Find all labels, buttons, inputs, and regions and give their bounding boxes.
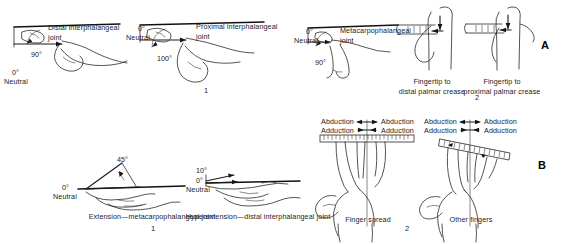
range-of-motion-figure: Distal interphalangeal joint 90° 0° Neut… [0,0,568,244]
other-fingers-adduction-right: Adduction [484,127,517,135]
other-fingers-adduction-left: Adduction [424,127,457,135]
subpanel-number-b2: 2 [405,224,409,233]
other-fingers-drawing [0,0,568,244]
panel-letter-b: B [538,159,546,171]
other-fingers-caption: Other fingers [450,216,493,224]
